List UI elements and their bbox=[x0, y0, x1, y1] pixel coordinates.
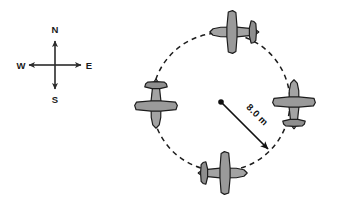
plane-bottom bbox=[198, 152, 247, 195]
compass-label-east: E bbox=[86, 60, 92, 71]
compass-label-west: W bbox=[17, 60, 26, 71]
plane-top bbox=[210, 11, 259, 54]
plane-right bbox=[273, 80, 316, 129]
diagram-canvas: N E S W 8.0 m bbox=[0, 0, 337, 206]
compass-rose: N E S W bbox=[17, 24, 93, 105]
compass-label-north: N bbox=[52, 24, 59, 35]
physics-diagram: N E S W 8.0 m bbox=[0, 0, 337, 206]
compass-label-south: S bbox=[52, 94, 58, 105]
center-point bbox=[218, 99, 224, 105]
radius-label: 8.0 m bbox=[244, 102, 270, 128]
plane-left bbox=[135, 79, 178, 128]
radius-indicator: 8.0 m bbox=[218, 99, 270, 149]
